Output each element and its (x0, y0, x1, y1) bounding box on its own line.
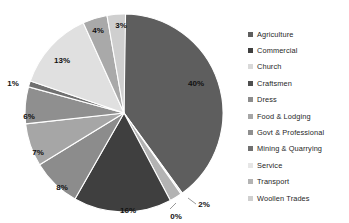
slice-label-commercial: 16% (120, 206, 136, 215)
legend-swatch-icon (248, 48, 253, 53)
legend-item-dress[interactable]: Dress (248, 92, 349, 108)
legend-swatch-icon (248, 146, 253, 151)
pie-slices-group (25, 14, 223, 212)
slice-label-food-and-lodging: 7% (32, 148, 44, 157)
legend-item-label: Transport (257, 177, 289, 186)
legend-item-label: Dress (257, 95, 277, 104)
legend-item-mining-and-quarrying[interactable]: Mining & Quarrying (248, 141, 349, 157)
legend-swatch-icon (248, 32, 253, 37)
pie-chart-figure: 40% 0% 2% 16% 8% 7% 6% 1% 13% 4% 3% Agri… (0, 0, 349, 223)
slice-label-service: 4% (92, 26, 104, 35)
legend-item-label: Service (257, 161, 282, 170)
legend-swatch-icon (248, 97, 253, 102)
legend-item-label: Food & Lodging (257, 112, 311, 121)
legend-item-craftsmen[interactable]: Craftsmen (248, 75, 349, 91)
legend-swatch-icon (248, 179, 253, 184)
legend-item-label: Mining & Quarrying (257, 144, 322, 153)
legend-item-label: Craftsmen (257, 79, 292, 88)
slice-label-agriculture: 40% (188, 79, 204, 88)
legend-swatch-icon (248, 114, 253, 119)
leader-line-two-percent (188, 198, 196, 204)
legend-item-label: Agriculture (257, 30, 293, 39)
slice-label-govt-and-professional: 6% (23, 112, 35, 121)
slice-label-craftsmen: 13% (54, 56, 70, 65)
legend-item-govt-and-professional[interactable]: Govt & Professional (248, 124, 349, 140)
legend-item-label: Govt & Professional (257, 128, 324, 137)
slice-label-mining-and-quarrying: 1% (7, 79, 19, 88)
legend-swatch-icon (248, 130, 253, 135)
legend-swatch-icon (248, 163, 253, 168)
pie-chart-graphic: 40% 0% 2% 16% 8% 7% 6% 1% 13% 4% 3% (0, 0, 249, 223)
legend-item-church[interactable]: Church (248, 59, 349, 75)
legend-item-label: Woollen Trades (257, 194, 310, 203)
legend-item-commercial[interactable]: Commercial (248, 42, 349, 58)
legend-item-service[interactable]: Service (248, 157, 349, 173)
legend-item-agriculture[interactable]: Agriculture (248, 26, 349, 42)
slice-label-woollen-trades: 3% (115, 21, 127, 30)
slice-label-dress: 8% (56, 183, 68, 192)
slice-label-transport: 2% (198, 200, 210, 209)
legend-item-label: Commercial (257, 46, 297, 55)
legend-item-label: Church (257, 62, 281, 71)
legend-swatch-icon (248, 81, 253, 86)
slice-label-church: 0% (170, 212, 182, 221)
legend-item-woollen-trades[interactable]: Woollen Trades (248, 190, 349, 206)
legend-item-food-and-lodging[interactable]: Food & Lodging (248, 108, 349, 124)
legend-item-transport[interactable]: Transport (248, 174, 349, 190)
legend-swatch-icon (248, 64, 253, 69)
leader-line-zero-percent (170, 203, 176, 209)
chart-legend: Agriculture Commercial Church Craftsmen … (248, 26, 349, 206)
legend-swatch-icon (248, 196, 253, 201)
